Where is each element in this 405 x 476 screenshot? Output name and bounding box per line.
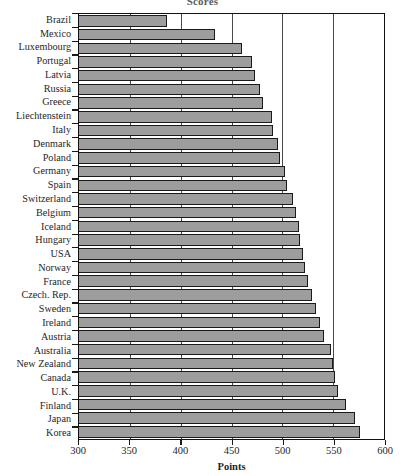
y-axis-label: Belgium: [0, 206, 75, 220]
bar-row: [79, 55, 384, 69]
y-axis-label: Iceland: [0, 220, 75, 234]
bar: [79, 193, 293, 205]
bar: [79, 111, 272, 123]
bar: [79, 358, 333, 370]
bar: [79, 426, 360, 438]
y-axis-label: Spain: [0, 178, 75, 192]
y-axis-category-labels: BrazilMexicoLuxembourgPortugalLatviaRuss…: [0, 13, 75, 440]
x-axis-label: 550: [326, 445, 342, 456]
bar-row: [79, 357, 384, 371]
bar-row: [79, 69, 384, 83]
y-axis-label: Czech. Rep.: [0, 289, 75, 303]
bar-chart: Scores BrazilMexicoLuxembourgPortugalLat…: [0, 0, 405, 476]
bar-row: [79, 247, 384, 261]
x-axis-label: 500: [275, 445, 291, 456]
bar: [79, 330, 324, 342]
y-axis-label: Finland: [0, 399, 75, 413]
bar: [79, 180, 287, 192]
bar: [79, 70, 255, 82]
bar: [79, 303, 316, 315]
bar-row: [79, 178, 384, 192]
y-axis-label: USA: [0, 247, 75, 261]
y-axis-label: Sweden: [0, 302, 75, 316]
bar: [79, 15, 167, 27]
bar-row: [79, 14, 384, 28]
bar-row: [79, 288, 384, 302]
y-axis-label: Hungary: [0, 234, 75, 248]
bar-row: [79, 151, 384, 165]
bar: [79, 262, 305, 274]
y-axis-label: Norway: [0, 261, 75, 275]
x-axis-tick-labels: 300350400450500550600: [78, 445, 385, 461]
bar-row: [79, 206, 384, 220]
bar-row: [79, 274, 384, 288]
chart-title: Scores: [0, 0, 405, 7]
bar: [79, 412, 355, 424]
bar: [79, 248, 303, 260]
y-axis-label: Mexico: [0, 27, 75, 41]
bar-row: [79, 261, 384, 275]
y-axis-label: Ireland: [0, 316, 75, 330]
bar-row: [79, 96, 384, 110]
bar: [79, 166, 285, 178]
bar-row: [79, 343, 384, 357]
x-axis-label: 300: [70, 445, 86, 456]
bar-row: [79, 137, 384, 151]
y-axis-label: New Zealand: [0, 358, 75, 372]
y-axis-label: Canada: [0, 371, 75, 385]
bar-row: [79, 165, 384, 179]
y-axis-label: Russia: [0, 82, 75, 96]
y-axis-label: Greece: [0, 96, 75, 110]
x-axis-label: 400: [172, 445, 188, 456]
bar-row: [79, 233, 384, 247]
bar-row: [79, 41, 384, 55]
bar: [79, 84, 260, 96]
bar: [79, 207, 296, 219]
y-axis-label: France: [0, 275, 75, 289]
bar: [79, 344, 331, 356]
y-axis-label: Luxembourg: [0, 41, 75, 55]
x-axis-label: 350: [121, 445, 137, 456]
bar: [79, 234, 300, 246]
bar: [79, 275, 308, 287]
bar-row: [79, 384, 384, 398]
bar: [79, 385, 338, 397]
y-axis-label: Brazil: [0, 13, 75, 27]
y-axis-label: U.K.: [0, 385, 75, 399]
bar: [79, 221, 299, 233]
bar-row: [79, 124, 384, 138]
bar: [79, 371, 335, 383]
bar: [79, 56, 252, 68]
x-axis-label: 600: [377, 445, 393, 456]
bar-row: [79, 83, 384, 97]
y-axis-label: Korea: [0, 426, 75, 440]
y-axis-label: Switzerland: [0, 192, 75, 206]
y-axis-label: Germany: [0, 165, 75, 179]
bar-series: [79, 14, 384, 439]
y-axis-label: Denmark: [0, 137, 75, 151]
x-axis-title: Points: [78, 461, 385, 472]
y-axis-label: Japan: [0, 413, 75, 427]
bar-row: [79, 192, 384, 206]
y-axis-label: Austria: [0, 330, 75, 344]
y-axis-label: Poland: [0, 151, 75, 165]
bar: [79, 125, 273, 137]
bar-row: [79, 315, 384, 329]
plot-area: [78, 13, 385, 440]
bar: [79, 399, 346, 411]
bar-row: [79, 302, 384, 316]
y-axis-label: Latvia: [0, 68, 75, 82]
bar-row: [79, 220, 384, 234]
bar-row: [79, 411, 384, 425]
bar-row: [79, 110, 384, 124]
bar: [79, 317, 320, 329]
bar: [79, 43, 242, 55]
bar-row: [79, 370, 384, 384]
y-axis-label: Italy: [0, 123, 75, 137]
bar: [79, 152, 280, 164]
bar: [79, 97, 263, 109]
bar: [79, 289, 312, 301]
bar-row: [79, 398, 384, 412]
y-axis-label: Portugal: [0, 54, 75, 68]
y-axis-label: Australia: [0, 344, 75, 358]
